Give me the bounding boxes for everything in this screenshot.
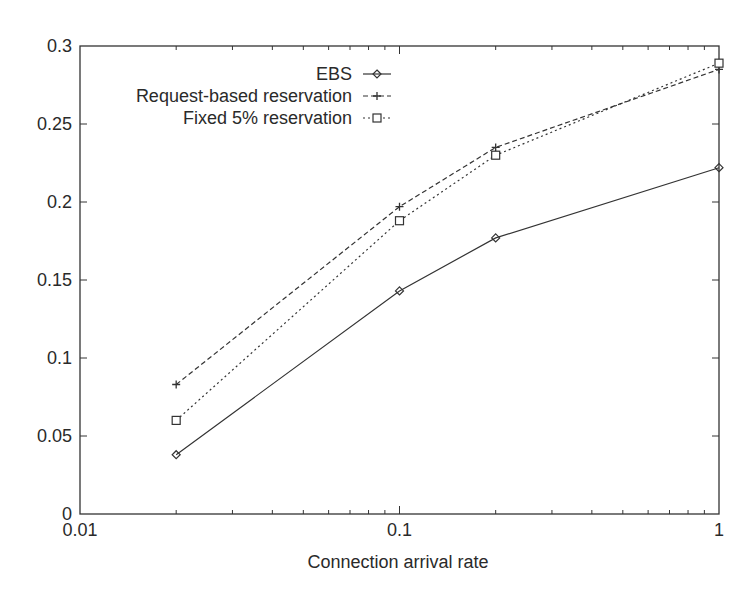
square-marker bbox=[492, 151, 500, 159]
x-tick-label: 0.1 bbox=[387, 520, 412, 540]
y-tick-label: 0.05 bbox=[37, 426, 72, 446]
x-tick-label: 0.01 bbox=[62, 520, 97, 540]
square-marker bbox=[373, 114, 381, 122]
legend: EBS Request-based reservation Fixed 5% r… bbox=[136, 64, 391, 128]
square-marker bbox=[172, 416, 180, 424]
line-chart: 00.050.10.150.20.250.3 0.010.11 Connecti… bbox=[0, 0, 756, 597]
y-tick-label: 0.1 bbox=[47, 348, 72, 368]
legend-label-fixed: Fixed 5% reservation bbox=[183, 108, 352, 128]
square-marker bbox=[715, 59, 723, 67]
plot-frame bbox=[80, 46, 719, 514]
series-line-0 bbox=[176, 168, 719, 455]
y-tick-label: 0.2 bbox=[47, 192, 72, 212]
legend-samples bbox=[363, 70, 391, 122]
y-tick-label: 0.25 bbox=[37, 114, 72, 134]
plus-marker bbox=[373, 92, 381, 100]
legend-label-ebs: EBS bbox=[316, 64, 352, 84]
x-tick-label: 1 bbox=[714, 520, 724, 540]
y-tick-label: 0.15 bbox=[37, 270, 72, 290]
y-axis-ticks: 00.050.10.150.20.250.3 bbox=[37, 36, 719, 524]
y-tick-label: 0.3 bbox=[47, 36, 72, 56]
plus-marker bbox=[492, 143, 500, 151]
x-axis-ticks: 0.010.11 bbox=[62, 46, 724, 540]
x-axis-title: Connection arrival rate bbox=[307, 552, 488, 572]
square-marker bbox=[396, 217, 404, 225]
legend-label-request-based: Request-based reservation bbox=[136, 86, 352, 106]
